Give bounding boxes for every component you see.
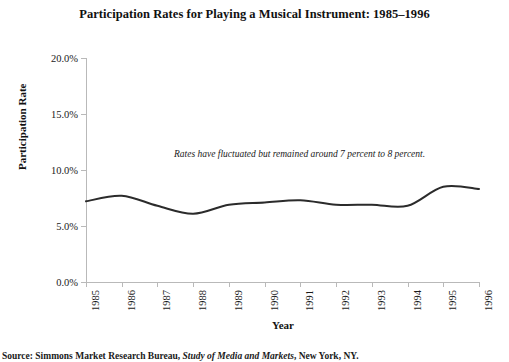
y-axis-title: Participation Rate <box>16 84 28 170</box>
x-tick-label: 1992 <box>340 290 351 311</box>
x-tick-label: 1989 <box>233 290 244 311</box>
x-tick-mark <box>300 282 301 287</box>
x-tick-mark <box>122 282 123 287</box>
x-tick-label: 1990 <box>269 290 280 311</box>
x-tick-label: 1995 <box>447 290 458 311</box>
y-tick-label: 0.0% <box>56 277 78 288</box>
source-work: Study of Media and Markets <box>183 351 294 361</box>
x-tick-label: 1996 <box>483 290 494 311</box>
x-tick-label: 1985 <box>90 290 101 311</box>
x-axis-line <box>86 282 480 283</box>
chart-title: Participation Rates for Playing a Musica… <box>0 7 509 22</box>
x-tick-label: 1993 <box>376 290 387 311</box>
x-tick-mark <box>157 282 158 287</box>
x-axis-title: Year <box>86 319 480 331</box>
x-tick-mark <box>229 282 230 287</box>
x-tick-mark <box>372 282 373 287</box>
y-tick-label: 15.0% <box>51 109 78 120</box>
x-tick-label: 1991 <box>304 290 315 311</box>
source-prefix: Source: Simmons Market Research Bureau, <box>2 351 183 361</box>
chart-figure: Participation Rates for Playing a Musica… <box>0 0 509 362</box>
x-tick-mark <box>443 282 444 287</box>
x-tick-mark <box>193 282 194 287</box>
source-note: Source: Simmons Market Research Bureau, … <box>2 351 359 361</box>
x-tick-label: 1987 <box>161 290 172 311</box>
x-tick-mark <box>336 282 337 287</box>
series-path <box>86 186 479 214</box>
x-tick-label: 1986 <box>126 290 137 311</box>
y-tick-label: 10.0% <box>51 165 78 176</box>
x-tick-label: 1988 <box>197 290 208 311</box>
source-suffix: , New York, NY. <box>294 351 359 361</box>
x-tick-mark <box>408 282 409 287</box>
x-tick-mark <box>479 282 480 287</box>
y-tick-label: 5.0% <box>56 221 78 232</box>
x-tick-label: 1994 <box>412 290 423 311</box>
plot-area: 0.0%5.0%10.0%15.0%20.0% 1985198619871988… <box>86 58 479 282</box>
chart-annotation: Rates have fluctuated but remained aroun… <box>174 149 425 159</box>
y-tick-label: 20.0% <box>51 53 78 64</box>
x-tick-mark <box>265 282 266 287</box>
x-tick-mark <box>86 282 87 287</box>
series-line-participation-rate <box>86 58 479 282</box>
